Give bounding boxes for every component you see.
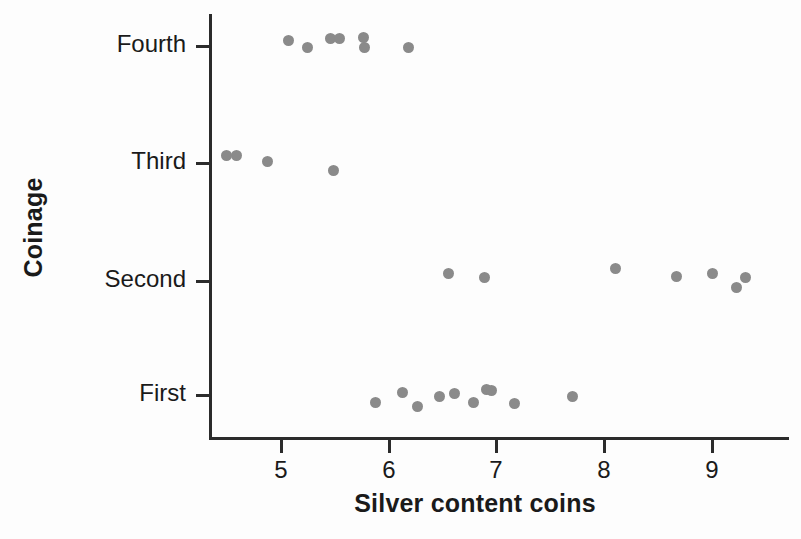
x-tick-label-7: 7 [471,456,521,484]
x-tick-label-5: 5 [256,456,306,484]
y-tick-label-second: Second [26,265,186,293]
y-tick-fourth [196,45,209,48]
data-point [231,150,242,161]
data-point [221,150,232,161]
data-point [325,33,336,44]
x-tick-5 [280,440,283,453]
y-tick-second [196,280,209,283]
data-point [412,401,423,412]
data-point [358,32,369,43]
x-tick-8 [603,440,606,453]
data-point [328,165,339,176]
data-point [359,42,370,53]
data-point [567,391,578,402]
data-point [707,268,718,279]
y-tick-label-fourth: Fourth [26,30,186,58]
data-point [509,398,520,409]
data-point [434,391,445,402]
data-point [486,385,497,396]
y-tick-label-third: Third [26,147,186,175]
y-axis-line [209,14,212,439]
data-point [403,42,414,53]
x-tick-6 [388,440,391,453]
data-point [671,271,682,282]
scatter-plot-figure: Coinage FourthThirdSecondFirst 56789 Sil… [0,0,801,539]
data-point [449,388,460,399]
data-point [731,282,742,293]
data-point [283,35,294,46]
data-point [302,42,313,53]
x-tick-label-9: 9 [687,456,737,484]
data-point [397,387,408,398]
data-point [481,384,492,395]
x-tick-7 [495,440,498,453]
x-tick-label-6: 6 [364,456,414,484]
data-point [262,156,273,167]
data-point [479,272,490,283]
data-point [334,33,345,44]
x-tick-9 [711,440,714,453]
y-tick-first [196,394,209,397]
data-point [610,263,621,274]
y-tick-third [196,162,209,165]
data-point [468,397,479,408]
y-tick-label-first: First [26,379,186,407]
data-point [443,268,454,279]
data-point [370,397,381,408]
data-point [740,272,751,283]
x-tick-label-8: 8 [579,456,629,484]
x-axis-title: Silver content coins [215,489,735,518]
x-axis-line [209,437,789,440]
